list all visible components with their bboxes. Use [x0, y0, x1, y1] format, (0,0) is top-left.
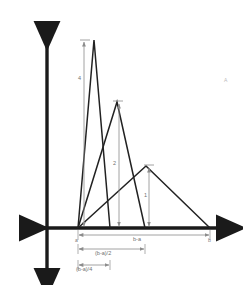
height-label-1: 1: [144, 193, 147, 199]
medium-triangle: [78, 102, 145, 228]
span-label-half: (b-a)/2: [95, 251, 111, 257]
span-half: [78, 244, 145, 254]
height-label-2: 2: [113, 161, 116, 167]
tall-narrow-triangle: [78, 40, 110, 228]
height-label-4: 4: [78, 76, 81, 82]
corner-mark-a: A: [224, 78, 227, 83]
point-label-b: b: [208, 238, 211, 243]
axis-group: [22, 24, 219, 271]
span-b-minus-a: [78, 230, 210, 240]
span-label-quarter: (b-a)/4: [76, 267, 92, 273]
point-label-a: a: [75, 238, 78, 243]
span-label-b-minus-a: b-a: [133, 237, 141, 243]
triangle-density-diagram: [0, 0, 243, 285]
